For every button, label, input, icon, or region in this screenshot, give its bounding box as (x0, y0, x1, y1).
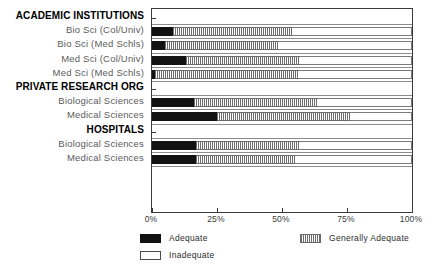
stacked-bar (152, 41, 412, 50)
group-header-label: PRIVATE RESEARCH ORG (16, 82, 144, 92)
chart-row (152, 39, 412, 53)
bar-segment-inadequate (300, 56, 412, 65)
legend-swatch-adequate-icon (140, 234, 161, 243)
category-label: Medical Sciences (67, 153, 144, 163)
stacked-bar (152, 98, 412, 107)
bar-segment-adequate (152, 27, 173, 36)
stacked-bar (152, 56, 412, 65)
legend-item-generally[interactable]: Generally Adequate (300, 233, 409, 243)
group-separator-row (152, 82, 412, 96)
x-axis-tick-label: 50% (272, 214, 290, 224)
group-axis-tick (152, 89, 156, 90)
chart-row (152, 139, 412, 153)
category-label: Medical Sciences (67, 110, 144, 120)
legend-label: Inadequate (169, 250, 215, 260)
plot-area (151, 8, 413, 213)
legend-swatch-generally-icon (300, 234, 321, 243)
chart-row (152, 54, 412, 68)
legend-swatch-inadequate-icon (140, 251, 161, 260)
x-axis-tick-label: 0% (145, 214, 158, 224)
group-separator-row (152, 125, 412, 139)
stacked-bar (152, 27, 412, 36)
group-separator-row (152, 11, 412, 25)
bar-segment-inadequate (350, 112, 412, 121)
chart-row (152, 96, 412, 110)
bar-segment-inadequate (279, 41, 412, 50)
x-axis-tick (152, 208, 153, 212)
x-axis-tick-label: 25% (207, 214, 225, 224)
bar-segment-inadequate (295, 155, 412, 164)
chart-legend: AdequateGenerally AdequateInadequate (140, 233, 439, 271)
group-header-label: HOSPITALS (87, 125, 144, 135)
chart-row (152, 25, 412, 39)
category-label: Biological Sciences (58, 139, 144, 149)
bar-segment-generally-adequate (194, 98, 319, 107)
stacked-bar (152, 112, 412, 121)
bar-segment-adequate (152, 155, 196, 164)
legend-label: Adequate (169, 233, 208, 243)
chart-row (152, 153, 412, 167)
bar-segment-adequate (152, 56, 186, 65)
x-axis-tick (347, 208, 348, 212)
bar-segment-inadequate (300, 141, 412, 150)
bar-segment-adequate (152, 41, 165, 50)
category-label-column: ACADEMIC INSTITUTIONSBio Sci (Col/Univ)B… (0, 8, 148, 213)
legend-label: Generally Adequate (329, 233, 409, 243)
legend-item-adequate[interactable]: Adequate (140, 233, 208, 243)
category-label: Bio Sci (Col/Univ) (66, 25, 144, 35)
bar-segment-generally-adequate (155, 70, 298, 79)
x-axis-tick-label: 75% (337, 214, 355, 224)
x-axis-tick (282, 208, 283, 212)
category-label: Med Sci (Med Schls) (53, 68, 144, 78)
group-axis-tick (152, 18, 156, 19)
x-axis-tick (412, 208, 413, 212)
group-header-label: ACADEMIC INSTITUTIONS (16, 11, 144, 21)
bar-segment-adequate (152, 141, 196, 150)
legend-item-inadequate[interactable]: Inadequate (140, 250, 215, 260)
stacked-bar (152, 141, 412, 150)
bar-segment-inadequate (318, 98, 412, 107)
category-label: Med Sci (Col/Univ) (61, 54, 144, 64)
bar-segment-adequate (152, 98, 194, 107)
group-axis-tick (152, 132, 156, 133)
stacked-bar (152, 70, 412, 79)
x-axis-tick (217, 208, 218, 212)
stacked-bar-chart: ACADEMIC INSTITUTIONSBio Sci (Col/Univ)B… (0, 0, 439, 274)
stacked-bar (152, 155, 412, 164)
chart-row (152, 110, 412, 124)
bar-segment-generally-adequate (173, 27, 293, 36)
bar-segment-generally-adequate (186, 56, 300, 65)
chart-row (152, 68, 412, 82)
bar-segment-inadequate (292, 27, 412, 36)
x-axis-tick-label: 100% (400, 214, 423, 224)
bar-segment-generally-adequate (196, 141, 300, 150)
plot-inner (152, 9, 412, 212)
bar-segment-generally-adequate (217, 112, 350, 121)
bar-segment-adequate (152, 112, 217, 121)
category-label: Biological Sciences (58, 96, 144, 106)
bar-segment-inadequate (298, 70, 412, 79)
bar-segment-generally-adequate (196, 155, 295, 164)
category-label: Bio Sci (Med Schls) (57, 39, 144, 49)
bar-segment-generally-adequate (165, 41, 279, 50)
